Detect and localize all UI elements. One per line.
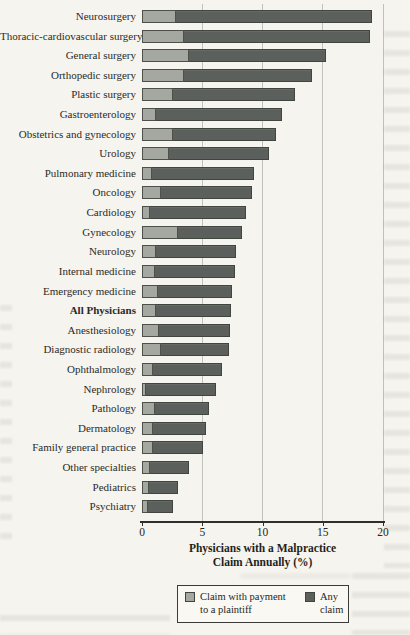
- payment-claim-bar: [142, 88, 173, 101]
- chart-row: Pediatrics: [0, 477, 410, 497]
- payment-claim-bar: [142, 167, 152, 180]
- chart-row: All Physicians: [0, 301, 410, 321]
- payment-claim-bar: [142, 206, 150, 219]
- chart-row: Ophthalmology: [0, 360, 410, 380]
- payment-claim-bar: [142, 245, 156, 258]
- category-label: Emergency medicine: [0, 286, 142, 297]
- chart-row: Internal medicine: [0, 262, 410, 282]
- category-label: Urology: [0, 148, 142, 159]
- payment-claim-bar: [142, 343, 161, 356]
- any-claim-bar: [142, 10, 372, 23]
- any-claim-swatch: [305, 592, 315, 602]
- chart-row: Anesthesiology: [0, 320, 410, 340]
- chart-row: Orthopedic surgery: [0, 66, 410, 86]
- any-claim-bar: [142, 245, 236, 258]
- payment-claim-bar: [142, 304, 156, 317]
- payment-claim-bar: [142, 481, 149, 494]
- x-axis-title: Physicians with a Malpractice Claim Annu…: [142, 542, 383, 569]
- any-claim-label: Any claim: [320, 591, 343, 616]
- x-axis-title-line1: Physicians with a Malpractice: [142, 542, 383, 556]
- payment-claim-bar: [142, 285, 158, 298]
- chart-row: Obstetrics and gynecology: [0, 124, 410, 144]
- chart-row: Psychiatry: [0, 497, 410, 517]
- any-claim-bar: [142, 186, 252, 199]
- category-label: Cardiology: [0, 207, 142, 218]
- bar-rows: NeurosurgeryThoracic-cardiovascular surg…: [0, 7, 410, 517]
- any-claim-bar: [142, 402, 209, 415]
- any-claim-bar: [142, 363, 222, 376]
- chart-row: Gynecology: [0, 222, 410, 242]
- book-page: NeurosurgeryThoracic-cardiovascular surg…: [0, 0, 410, 635]
- any-claim-bar: [142, 500, 173, 513]
- any-claim-bar: [142, 88, 295, 101]
- category-label: All Physicians: [0, 305, 142, 316]
- payment-claim-bar: [142, 30, 184, 43]
- category-label: Nephrology: [0, 384, 142, 395]
- any-claim-bar: [142, 441, 203, 454]
- payment-claim-bar: [142, 10, 176, 23]
- any-claim-bar: [142, 69, 312, 82]
- payment-claim-bar: [142, 383, 146, 396]
- chart-row: Thoracic-cardiovascular surgery: [0, 26, 410, 46]
- category-label: Dermatology: [0, 423, 142, 434]
- chart-row: Nephrology: [0, 379, 410, 399]
- category-label: Psychiatry: [0, 501, 142, 512]
- payment-claim-bar: [142, 500, 148, 513]
- x-tick-label-15: 15: [311, 526, 335, 538]
- chart-row: Emergency medicine: [0, 281, 410, 301]
- any-claim-bar: [142, 481, 178, 494]
- category-label: Pathology: [0, 403, 142, 414]
- category-label: Oncology: [0, 187, 142, 198]
- legend-item-payment: Claim with payment to a plaintiff: [185, 591, 296, 616]
- malpractice-claims-chart: NeurosurgeryThoracic-cardiovascular surg…: [0, 0, 410, 635]
- category-label: Other specialties: [0, 462, 142, 473]
- payment-claim-bar: [142, 363, 153, 376]
- category-label: Internal medicine: [0, 266, 142, 277]
- payment-claim-bar: [142, 49, 189, 62]
- any-claim-bar: [142, 128, 276, 141]
- any-claim-bar: [142, 343, 229, 356]
- category-label: Gastroenterology: [0, 109, 142, 120]
- x-tick-label-10: 10: [251, 526, 275, 538]
- any-claim-bar: [142, 285, 232, 298]
- category-label: Neurology: [0, 246, 142, 257]
- chart-row: Pathology: [0, 399, 410, 419]
- payment-claim-bar: [142, 69, 184, 82]
- category-label: Orthopedic surgery: [0, 70, 142, 81]
- payment-claim-bar: [142, 186, 161, 199]
- payment-claim-bar: [142, 402, 155, 415]
- any-claim-bar: [142, 324, 230, 337]
- category-label: Obstetrics and gynecology: [0, 129, 142, 140]
- any-claim-bar: [142, 147, 269, 160]
- chart-row: Dermatology: [0, 418, 410, 438]
- payment-claim-bar: [142, 461, 150, 474]
- payment-claim-bar: [142, 128, 173, 141]
- any-claim-bar: [142, 461, 189, 474]
- payment-claim-bar: [142, 265, 155, 278]
- payment-claim-label: Claim with payment to a plaintiff: [200, 591, 296, 616]
- payment-claim-bar: [142, 324, 159, 337]
- chart-row: Family general practice: [0, 438, 410, 458]
- chart-row: Urology: [0, 144, 410, 164]
- chart-row: General surgery: [0, 46, 410, 66]
- chart-row: Oncology: [0, 183, 410, 203]
- chart-row: Cardiology: [0, 203, 410, 223]
- chart-row: Diagnostic radiology: [0, 340, 410, 360]
- any-claim-bar: [142, 226, 242, 239]
- x-axis-title-line2: Claim Annually (%): [142, 556, 383, 570]
- any-claim-bar: [142, 383, 216, 396]
- category-label: Thoracic-cardiovascular surgery: [0, 31, 142, 42]
- chart-row: Neurology: [0, 242, 410, 262]
- any-claim-bar: [142, 49, 326, 62]
- category-label: Pediatrics: [0, 482, 142, 493]
- category-label: General surgery: [0, 50, 142, 61]
- payment-claim-bar: [142, 108, 156, 121]
- category-label: Pulmonary medicine: [0, 168, 142, 179]
- any-claim-bar: [142, 422, 206, 435]
- category-label: Ophthalmology: [0, 364, 142, 375]
- payment-claim-bar: [142, 422, 153, 435]
- payment-claim-swatch: [185, 592, 195, 602]
- any-claim-bar: [142, 304, 231, 317]
- category-label: Gynecology: [0, 227, 142, 238]
- chart-row: Other specialties: [0, 458, 410, 478]
